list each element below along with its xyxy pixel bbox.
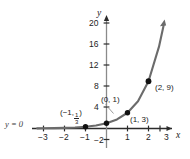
- fraction-denominator: 3: [74, 118, 79, 125]
- y-axis-arrowhead: [104, 15, 109, 21]
- data-point: [104, 121, 109, 126]
- y-tick-label-12: 12: [89, 61, 98, 70]
- x-tick-label-neg1: −1: [80, 133, 90, 142]
- point-label-0-1: (0, 1): [101, 96, 120, 104]
- x-tick-label-neg2: −2: [59, 133, 69, 142]
- point-label-neg1-open: (−1,: [60, 108, 74, 117]
- y-tick-label-4: 4: [94, 103, 99, 112]
- y-tick-label-16: 16: [89, 40, 98, 49]
- x-tick-label-1: 1: [125, 133, 130, 142]
- asymptote-label: y = 0: [5, 120, 23, 129]
- y-tick-label-8: 8: [94, 82, 99, 91]
- point-label-neg1-close: ): [79, 108, 82, 117]
- exponential-function-graph-figure: y x y = 0 −3 −2 −1 1 2 3 20 16 12 8 4 −2…: [0, 0, 190, 159]
- y-tick-label-neg2: −2: [94, 136, 104, 145]
- point-label-neg1-one-third: (−1,13): [60, 109, 82, 125]
- data-point: [146, 78, 152, 84]
- x-tick-label-3: 3: [164, 133, 169, 142]
- x-axis-arrowhead: [167, 126, 173, 131]
- x-tick-label-2: 2: [146, 133, 151, 142]
- data-point: [83, 124, 88, 129]
- x-axis-label: x: [176, 131, 180, 141]
- x-tick-label-neg3: −3: [38, 133, 48, 142]
- curve-arrowhead: [160, 20, 166, 27]
- point-label-1-3: (1, 3): [130, 116, 149, 124]
- y-tick-label-20: 20: [89, 19, 98, 28]
- exponential-curve: [37, 26, 163, 129]
- point-label-2-9: (2, 9): [155, 84, 174, 92]
